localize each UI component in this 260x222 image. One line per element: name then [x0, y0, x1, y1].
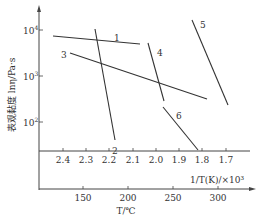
- series-2-line: [95, 29, 115, 140]
- x-top-tick: 2.1: [126, 155, 140, 165]
- viscosity-chart: 104 103 102 表观黏度 lnη/Pa·s 2.4 2.3 2.2 2.…: [0, 0, 260, 222]
- x-top-tick: 1.9: [172, 155, 187, 165]
- x-top-axis-title: 1/T(K)/×10³: [190, 175, 245, 185]
- x-top-tick: 1.8: [195, 155, 210, 165]
- x-bottom-tick: 300: [209, 193, 226, 203]
- series-3-label: 3: [61, 50, 67, 60]
- y-tick-10e3: 103: [23, 70, 38, 82]
- y-axis-arrow-icon: [37, 5, 41, 12]
- y-axis: 104 103 102 表观黏度 lnη/Pa·s: [6, 5, 43, 190]
- x-bottom-tick: 200: [119, 193, 136, 203]
- series-3-line: [70, 53, 207, 99]
- series-5-line: [192, 20, 228, 105]
- x-bottom-axis-title: T/℃: [116, 206, 135, 216]
- x-bottom-tick: 150: [74, 193, 91, 203]
- series-6-label: 6: [176, 111, 182, 121]
- x-top-tick: 2.3: [79, 155, 94, 165]
- series-labels: 1 2 3 4 5 6: [61, 20, 206, 156]
- x-top-tick: 2.2: [102, 155, 116, 165]
- series-lines: [53, 20, 228, 150]
- y-tick-10e2: 102: [23, 116, 38, 128]
- x-top-tick: 2.4: [56, 155, 71, 165]
- x-axis-bottom: 150 200 250 300 T/℃: [39, 186, 256, 216]
- x-bottom-tick: 250: [164, 193, 181, 203]
- x-axis-top: 2.4 2.3 2.2 2.1 2.0 1.9 1.8 1.7 1/T(K)/×…: [39, 148, 250, 185]
- x-top-tick: 2.0: [149, 155, 164, 165]
- x-top-tick: 1.7: [219, 155, 234, 165]
- x-axis-arrow-icon: [249, 187, 256, 191]
- y-tick-10e4: 104: [23, 24, 38, 36]
- series-5-label: 5: [200, 20, 206, 30]
- series-2-label: 2: [112, 146, 118, 156]
- y-axis-title: 表观黏度 lnη/Pa·s: [6, 57, 17, 132]
- series-1-label: 1: [114, 33, 120, 43]
- series-4-label: 4: [157, 48, 163, 58]
